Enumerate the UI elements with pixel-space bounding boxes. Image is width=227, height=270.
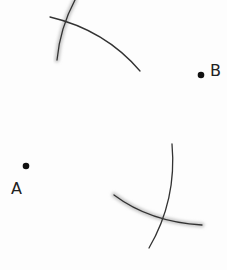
construction-diagram: AB [0,0,227,270]
arc-shadow-bottom-shallow [114,195,202,225]
arc-shadow-top-steep [57,0,75,60]
points: AB [11,61,221,198]
point-A-label: A [11,179,22,198]
arc-bottom-steep [149,144,173,248]
compass-arcs [50,0,202,248]
point-A-dot [23,163,30,170]
point-B-dot [198,72,205,79]
arc-bottom-shallow [114,195,202,225]
point-B-label: B [210,61,221,80]
arc-shadows [57,0,202,225]
